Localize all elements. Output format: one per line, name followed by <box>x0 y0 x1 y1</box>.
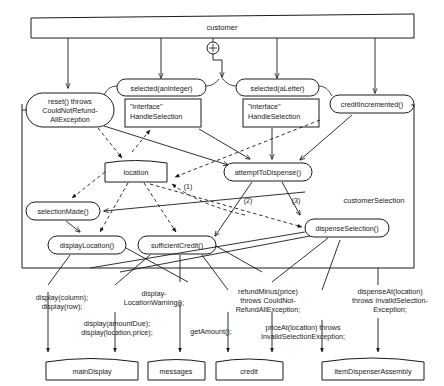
interface-box-left-label-2: HandleSelection <box>130 112 182 121</box>
edge-attempt-to-two <box>215 182 252 236</box>
box-main-display-label: mainDisplay <box>72 367 112 376</box>
edge-reset-to-attempt <box>104 126 228 165</box>
label-get-amount: getAmount(); <box>190 327 232 336</box>
edge-selected-letter-curve-left <box>222 78 236 86</box>
label-display-location-warning-2: LocationWarning(); <box>124 298 184 307</box>
edge-location-to-display-location <box>100 183 128 232</box>
edge-dispense-to-credit <box>272 238 328 282</box>
edge-selected-integer-curve-right <box>206 79 219 86</box>
interface-box-right-label-2: HandleSelection <box>248 112 300 121</box>
edge-selected-integer-curve-left <box>104 86 117 95</box>
edge-sufficient-credit-to-credit <box>202 255 228 290</box>
box-item-dispenser-assembly-label: itemDispenserAssembly <box>334 367 411 376</box>
edge-label-two: (2) <box>244 197 253 205</box>
node-location-label: location <box>124 168 149 177</box>
label-display-amount-due-1: display(amountDue); <box>84 319 150 328</box>
edge-label-three: (3) <box>292 197 301 205</box>
node-selection-made-label: selectionMade() <box>37 207 88 216</box>
box-credit-label: credit <box>240 367 258 376</box>
node-dispense-selection-label: dispenseSelection() <box>315 224 378 233</box>
edge-location-to-selection-made <box>72 172 105 198</box>
node-display-location-label: displayLocation() <box>60 241 114 250</box>
group-label-customer-selection: customerSelection <box>344 196 405 205</box>
label-dispense-at-3: Exception; <box>373 305 407 314</box>
edge-right-to-selection-made <box>104 192 305 211</box>
node-reset-label-3: AllException <box>50 115 90 124</box>
label-price-at-1: priceAt(location) throws <box>265 323 341 332</box>
label-refund-minus-3: RefundAllException; <box>236 305 301 314</box>
label-refund-minus-2: throws CouldNot- <box>240 296 296 305</box>
label-dispense-at-2: throws InvalidSelection- <box>352 296 429 305</box>
edge-label-one: (1) <box>184 183 193 191</box>
label-refund-minus-1: refundMinus(price) <box>238 287 298 296</box>
label-display-amount-due-2: display(location,price); <box>81 328 153 337</box>
edge-sufficient-credit-down <box>115 255 150 285</box>
interface-box-left-label-1: "interface" <box>130 102 163 111</box>
node-attempt-to-dispense-label: attemptToDispense() <box>235 168 301 177</box>
edge-reset-to-location <box>98 128 122 158</box>
edge-interface-left-to-location <box>132 130 150 152</box>
edge-selection-made-to-display-location <box>66 221 80 232</box>
edge-selected-integer-to-attempt <box>199 129 250 159</box>
node-sufficient-credit-label: sufficientCredit() <box>151 241 203 250</box>
customer-box-label: customer <box>206 23 238 32</box>
node-selected-aninteger-label: selected(anInteger) <box>131 84 193 93</box>
label-display-column-row-1: display(column); <box>36 293 88 302</box>
edge-dispense-to-price-at <box>322 240 340 290</box>
edge-selected-letter-curve-right <box>319 86 332 96</box>
uml-collaboration-diagram: reset() throws CouldNotRefund- AllExcept… <box>0 0 444 386</box>
node-selected-aletter-label: selected(aLetter) <box>251 84 305 93</box>
label-price-at-2: InvalidSelectionException; <box>261 332 345 341</box>
edge-display-location-down <box>48 255 70 285</box>
interface-box-right-label-1: "interface" <box>248 102 281 111</box>
label-display-location-warning-1: display- <box>142 289 167 298</box>
node-credit-incremented-label: creditIncremented() <box>341 100 403 109</box>
node-reset-label-2: CouldNotRefund- <box>42 106 98 115</box>
node-reset-label-1: reset() throws <box>48 97 92 106</box>
edge-plus-branch <box>213 54 222 77</box>
label-display-column-row-2: display(row); <box>42 302 83 311</box>
label-dispense-at-1: dispenseAt(location) <box>357 287 422 296</box>
uml-diagram-canvas: reset() throws CouldNotRefund- AllExcept… <box>0 0 444 386</box>
box-messages-label: messages <box>160 367 193 376</box>
